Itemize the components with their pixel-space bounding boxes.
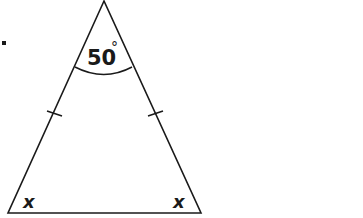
- degree-symbol: °: [111, 39, 118, 55]
- base-angle-left-label: x: [22, 191, 36, 212]
- base-angle-right-label: x: [172, 191, 186, 212]
- question-bullet: [2, 41, 6, 45]
- isosceles-triangle: [8, 1, 201, 213]
- triangle-diagram: 50 ° x x: [0, 0, 363, 218]
